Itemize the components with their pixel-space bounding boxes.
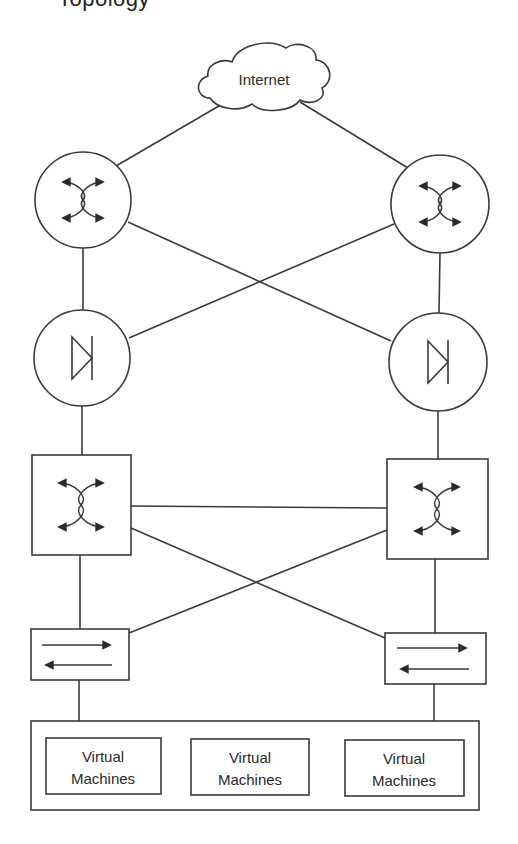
link-switch-left-switch-right [131,506,387,508]
vm-container: Virtual Machines Virtual Machines Virtua… [31,721,479,810]
link-switch-right-lb-left [129,530,387,633]
vm-label-line1: Virtual [229,749,271,766]
router-left [35,152,131,248]
vm-label-line1: Virtual [383,750,425,767]
link-internet-router-right [300,102,408,168]
link-router-right-firewall-right [439,253,440,313]
vm-label-line1: Virtual [82,748,124,765]
load-balancer-left [31,629,129,680]
internet-label: Internet [239,71,291,88]
firewall-left [34,310,130,406]
firewall-right [389,313,487,411]
vm-box: Virtual Machines [46,738,161,794]
vm-label-line2: Machines [71,770,135,787]
switch-right [387,459,488,559]
load-balancer-right [385,633,486,684]
vm-box: Virtual Machines [345,740,464,796]
vm-box: Virtual Machines [191,739,309,795]
internet-cloud: Internet [198,43,329,110]
network-topology-diagram: Internet [0,0,518,844]
vm-label-line2: Machines [218,771,282,788]
switch-left [32,455,131,555]
links [79,102,440,722]
router-right [391,155,489,253]
link-internet-router-left [116,103,224,166]
vm-label-line2: Machines [372,772,436,789]
link-switch-left-lb-right [131,528,385,638]
